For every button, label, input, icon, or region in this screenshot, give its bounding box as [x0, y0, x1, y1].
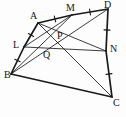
geometry-figure: AMDLPNQBC	[0, 0, 126, 117]
vertex-label-l: L	[13, 40, 19, 50]
geometry-canvas	[0, 0, 126, 117]
tick-A-M	[54, 16, 55, 22]
vertex-label-q: Q	[43, 50, 50, 60]
vertex-label-b: B	[4, 70, 11, 80]
vertex-label-p: P	[57, 31, 63, 41]
tick-N-C	[106, 74, 112, 75]
vertex-label-m: M	[66, 3, 75, 13]
vertex-label-c: C	[113, 98, 120, 108]
vertex-label-n: N	[110, 44, 117, 54]
cevian-B-M	[11, 15, 72, 74]
cevian-A-C	[38, 23, 112, 97]
side-B-C	[11, 74, 112, 97]
vertex-label-d: D	[104, 0, 111, 10]
tick-M-D	[90, 9, 91, 15]
cevian-A-N	[38, 23, 106, 51]
vertex-label-a: A	[30, 11, 37, 21]
